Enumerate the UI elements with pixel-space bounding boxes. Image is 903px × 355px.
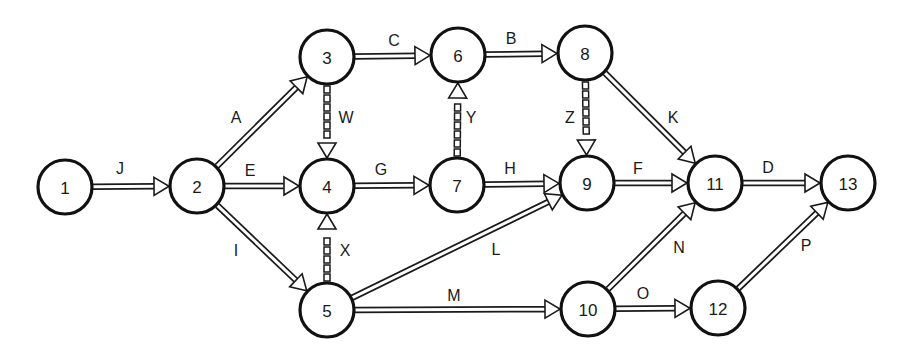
activity-arrow-h <box>483 175 559 193</box>
arrowhead-icon <box>414 176 429 194</box>
dummy-link-segment <box>454 149 460 156</box>
node-number: 8 <box>580 45 589 64</box>
arrowhead-icon <box>318 214 336 229</box>
node-number: 6 <box>453 47 462 66</box>
activity-label: K <box>668 109 679 126</box>
event-node-2: 2 <box>170 159 224 213</box>
activity-label: G <box>375 161 387 178</box>
arrowhead-icon <box>675 299 690 317</box>
activity-label: B <box>506 30 517 47</box>
node-number: 13 <box>839 175 858 194</box>
node-number: 10 <box>579 301 598 320</box>
event-node-6: 6 <box>431 28 485 82</box>
activity-label: H <box>504 160 516 177</box>
event-node-11: 11 <box>688 156 742 210</box>
dummy-link-segment <box>583 109 589 116</box>
node-number: 2 <box>192 178 201 197</box>
arrowhead-icon <box>545 300 560 318</box>
activity-arrow-e <box>223 177 299 195</box>
activity-arrow-j <box>91 177 169 195</box>
activity-label: C <box>388 32 400 49</box>
dummy-link-segment <box>582 82 588 89</box>
dummy-link-segment <box>583 100 589 107</box>
dummy-activity-arrow-x <box>318 214 336 281</box>
node-number: 7 <box>452 177 461 196</box>
dummy-link-segment <box>583 127 589 134</box>
dummy-link-segment <box>324 238 330 245</box>
dummy-link-segment <box>324 122 330 129</box>
activity-label: N <box>673 239 685 256</box>
activity-label: D <box>762 159 774 176</box>
activity-arrow-b <box>484 45 557 63</box>
node-number: 1 <box>60 179 69 198</box>
activity-arrow-f <box>613 174 687 192</box>
dummy-link-segment <box>583 118 589 125</box>
activity-label: Y <box>466 109 477 126</box>
event-node-10: 10 <box>561 282 615 336</box>
activity-label: X <box>340 242 351 259</box>
arrowhead-icon <box>284 177 299 195</box>
arrowhead-icon <box>577 140 595 155</box>
dummy-link-segment <box>324 274 330 281</box>
dummy-link-segment <box>324 95 330 102</box>
node-number: 3 <box>322 49 331 68</box>
arrowhead-icon <box>415 47 430 65</box>
dummy-link-segment <box>324 104 330 111</box>
arrowhead-icon <box>154 177 169 195</box>
event-node-7: 7 <box>430 158 484 212</box>
dummy-link-segment <box>454 131 460 138</box>
event-node-3: 3 <box>300 30 354 84</box>
arrowhead-icon <box>449 83 467 98</box>
activity-label: M <box>447 287 460 304</box>
event-node-12: 12 <box>691 281 745 335</box>
dummy-link-segment <box>324 113 330 120</box>
activity-label: F <box>633 160 643 177</box>
activity-arrow-a <box>215 77 307 168</box>
activity-label: A <box>231 109 242 126</box>
dummy-activity-arrow-y <box>449 83 467 156</box>
activity-arrow-i <box>216 204 307 291</box>
dummy-link-segment <box>324 86 330 93</box>
arrowhead-icon <box>542 45 557 63</box>
dummy-link-segment <box>455 104 461 111</box>
event-node-13: 13 <box>821 156 875 210</box>
activity-arrow-p <box>737 202 828 290</box>
node-number: 5 <box>322 302 331 321</box>
node-number: 11 <box>706 175 724 194</box>
node-number: 9 <box>582 175 591 194</box>
dummy-link-segment <box>583 91 589 98</box>
dummy-link-segment <box>454 122 460 129</box>
activity-label: W <box>338 109 354 126</box>
activity-arrow-d <box>741 174 820 192</box>
activity-arrow-c <box>353 47 430 65</box>
arrowhead-icon <box>544 175 559 193</box>
event-node-9: 9 <box>560 156 614 210</box>
dummy-link-segment <box>454 140 460 147</box>
activity-label: I <box>234 242 238 259</box>
activity-label: Z <box>565 109 575 126</box>
activity-arrow-o <box>614 299 690 317</box>
activity-label: L <box>492 241 501 258</box>
dummy-activity-arrow-z <box>577 82 595 155</box>
dummy-link-segment <box>324 265 330 272</box>
activity-label: O <box>637 285 649 302</box>
dummy-link-segment <box>455 113 461 120</box>
event-node-1: 1 <box>38 160 92 214</box>
activity-label: J <box>116 160 124 177</box>
dummy-activity-arrow-w <box>318 86 336 158</box>
activity-label: P <box>801 237 812 254</box>
event-node-5: 5 <box>300 283 354 337</box>
event-node-8: 8 <box>558 26 612 80</box>
arrowhead-icon <box>318 143 336 158</box>
node-number: 4 <box>322 178 331 197</box>
dummy-link-segment <box>324 131 330 138</box>
dummy-link-segment <box>324 247 330 254</box>
node-number: 12 <box>709 300 728 319</box>
activity-arrow-k <box>603 71 695 163</box>
arrowhead-icon <box>672 174 687 192</box>
activity-label: E <box>245 162 256 179</box>
event-node-4: 4 <box>300 159 354 213</box>
dummy-link-segment <box>324 256 330 263</box>
network-diagram: 12345678910111213 JAEICWGXLMBYHZKFNODP <box>0 0 903 355</box>
activity-arrow-g <box>353 176 429 194</box>
